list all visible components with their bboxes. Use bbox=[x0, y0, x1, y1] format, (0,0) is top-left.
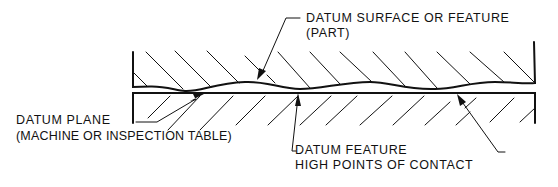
part-outline bbox=[133, 42, 535, 91]
label-high-points-contact: HIGH POINTS OF CONTACT bbox=[295, 158, 473, 173]
label-datum-feature: DATUM FEATURE bbox=[295, 143, 407, 158]
arrowhead-feature-2 bbox=[457, 94, 466, 106]
label-datum-plane: DATUM PLANE bbox=[16, 113, 111, 128]
leader-datum-surface bbox=[262, 18, 300, 73]
datum-diagram bbox=[0, 0, 558, 187]
table-outline bbox=[133, 93, 535, 123]
arrowhead-datum-plane bbox=[190, 94, 204, 101]
label-datum-plane-table: (MACHINE OR INSPECTION TABLE) bbox=[16, 129, 232, 144]
label-datum-surface-part: (PART) bbox=[306, 26, 350, 41]
label-datum-surface: DATUM SURFACE OR FEATURE bbox=[306, 11, 510, 26]
arrowhead-feature-1 bbox=[295, 93, 301, 106]
